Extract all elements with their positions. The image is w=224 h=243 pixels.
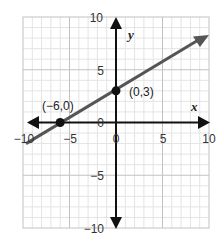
tick-x-neg5: −5 (63, 132, 77, 146)
tick-y-5: 5 (97, 64, 104, 78)
tick-x-0: 0 (113, 132, 120, 146)
tick-y-neg10: −10 (84, 222, 105, 236)
tick-y-neg5: −5 (90, 169, 104, 183)
tick-x-10: 10 (202, 132, 216, 146)
x-axis-label: x (190, 99, 198, 114)
x-axis-right-arrow-icon (198, 116, 210, 129)
y-axis-up-arrow-icon (110, 17, 122, 29)
tick-x-neg10: −10 (14, 132, 35, 146)
y-axis-down-arrow-icon (110, 217, 122, 229)
point-label-neg6-0: (−6,0) (42, 99, 74, 113)
tick-y-10: 10 (90, 11, 104, 25)
point-label-0-3: (0,3) (129, 85, 154, 99)
coordinate-plane: 10 5 0 −5 −10 −10 −5 0 5 10 y x (−6,0) (… (0, 0, 224, 243)
x-axis-left-arrow-icon (27, 116, 39, 129)
point-0-3 (112, 86, 121, 95)
tick-x-5: 5 (160, 132, 167, 146)
point-neg6-0 (56, 118, 65, 127)
y-axis-label: y (126, 27, 134, 42)
tick-y-0: 0 (97, 116, 104, 130)
